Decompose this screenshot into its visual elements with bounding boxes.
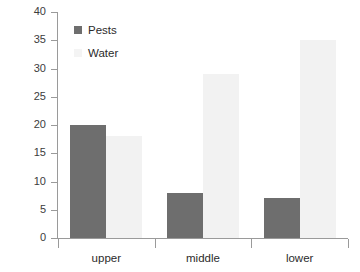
legend-swatch-pests [74,26,82,34]
y-axis-tick [51,238,57,239]
y-axis-tick [51,210,57,211]
bar-water-middle [203,74,239,238]
y-axis-tick [51,40,57,41]
bar-pests-lower [264,198,300,238]
y-axis-tick [51,182,57,183]
x-axis-label-lower: lower [251,252,348,264]
y-axis-label: 35 [6,34,46,45]
y-axis-label: 40 [6,6,46,17]
x-axis-tick [155,239,156,248]
plot-area [58,12,348,238]
y-axis-label: 10 [6,176,46,187]
bar-pests-middle [167,193,203,238]
x-axis-tick [251,239,252,248]
legend-item-water: Water [74,47,118,59]
y-axis-tick [51,125,57,126]
x-axis-line [57,238,348,239]
y-axis-label: 5 [6,204,46,215]
bar-pests-upper [70,125,106,238]
y-axis-tick [51,69,57,70]
y-axis-label: 30 [6,63,46,74]
y-axis-label: 25 [6,91,46,102]
y-axis-tick [51,12,57,13]
x-axis-tick [348,239,349,248]
x-axis-label-middle: middle [155,252,252,264]
y-axis-tick [51,97,57,98]
legend-swatch-water [74,49,82,57]
legend-item-pests: Pests [74,24,117,36]
y-axis-tick [51,153,57,154]
bar-chart: 0510152025303540 uppermiddlelower Pests … [0,0,360,272]
bar-water-upper [106,136,142,238]
y-axis-label: 0 [6,232,46,243]
legend-label-pests: Pests [88,24,117,36]
x-axis-label-upper: upper [58,252,155,264]
legend-label-water: Water [88,47,118,59]
x-axis-tick [58,239,59,248]
bar-water-lower [300,40,336,238]
y-axis-label: 15 [6,147,46,158]
y-axis-label: 20 [6,119,46,130]
